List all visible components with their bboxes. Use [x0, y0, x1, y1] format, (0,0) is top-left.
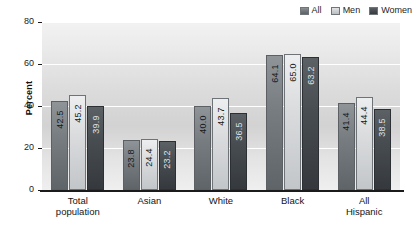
y-axis-tick-label: 20 — [0, 143, 34, 152]
x-axis-category-line: All — [328, 195, 400, 206]
bar-value-label: 45.2 — [73, 104, 82, 122]
bar-value-label: 40.0 — [198, 115, 207, 133]
x-axis-category-line: Asian — [114, 195, 186, 206]
bar: 44.4 — [356, 97, 373, 190]
bar-groups: 42.545.239.923.824.423.240.043.736.564.1… — [42, 22, 400, 190]
bar-value-label: 41.4 — [342, 112, 351, 130]
bar-value-label: 64.1 — [270, 65, 279, 83]
bar: 42.5 — [51, 101, 68, 190]
legend-label-men: Men — [343, 6, 361, 15]
bar: 45.2 — [69, 95, 86, 190]
bar-value-label: 63.2 — [306, 67, 315, 85]
y-axis-tick-label: 0 — [0, 185, 34, 194]
x-axis-category-line: Total — [42, 195, 114, 206]
x-axis-category-line: population — [42, 206, 114, 217]
bar-value-label: 24.4 — [145, 148, 154, 166]
bar-value-label: 36.5 — [234, 123, 243, 141]
bar: 43.7 — [212, 98, 229, 190]
bar-value-label: 44.4 — [360, 106, 369, 124]
bar-group: 23.824.423.2 — [114, 22, 186, 190]
x-axis-category-label: White — [185, 195, 257, 206]
bar-value-label: 23.2 — [163, 151, 172, 169]
x-axis-category-line: White — [185, 195, 257, 206]
y-axis-tick-label: 40 — [0, 101, 34, 110]
bar: 41.4 — [338, 103, 355, 190]
legend-swatch-all-icon — [300, 7, 309, 15]
bar-value-label: 38.5 — [378, 118, 387, 136]
legend-label-all: All — [312, 6, 322, 15]
x-axis-category-label: AllHispanic — [328, 195, 400, 217]
x-axis-category-label: Black — [257, 195, 329, 206]
x-axis-category-label: Asian — [114, 195, 186, 206]
x-axis-category-line: Black — [257, 195, 329, 206]
bar: 24.4 — [141, 139, 158, 190]
y-axis-title: Percent — [24, 70, 34, 126]
bar: 36.5 — [230, 113, 247, 190]
bar-value-label: 65.0 — [288, 63, 297, 81]
legend-item-all: All — [300, 6, 322, 15]
x-axis-category-line: Hispanic — [328, 206, 400, 217]
bar-value-label: 23.8 — [127, 149, 136, 167]
legend-swatch-women-icon — [369, 7, 378, 15]
bar: 65.0 — [284, 54, 301, 191]
bar-group: 41.444.438.5 — [328, 22, 400, 190]
x-axis-category-label: Totalpopulation — [42, 195, 114, 217]
legend-item-men: Men — [331, 6, 361, 15]
plot-area: 42.545.239.923.824.423.240.043.736.564.1… — [42, 22, 400, 190]
x-axis-line — [40, 190, 404, 192]
bar: 39.9 — [87, 106, 104, 190]
bar: 63.2 — [302, 57, 319, 190]
chart-legend: All Men Women — [300, 4, 412, 17]
bar-group: 64.165.063.2 — [257, 22, 329, 190]
x-axis-labels: TotalpopulationAsianWhiteBlackAllHispani… — [42, 195, 400, 235]
y-axis-tick-label: 60 — [0, 59, 34, 68]
bar: 38.5 — [374, 109, 391, 190]
bar-group: 42.545.239.9 — [42, 22, 114, 190]
legend-label-women: Women — [381, 6, 412, 15]
bar-value-label: 42.5 — [55, 110, 64, 128]
bar-value-label: 39.9 — [91, 116, 100, 134]
bar-chart: All Men Women Percent 020406080 42.545.2… — [0, 0, 418, 237]
y-axis-tick-label: 80 — [0, 17, 34, 26]
bar: 23.2 — [159, 141, 176, 190]
bar-value-label: 43.7 — [216, 108, 225, 126]
bar-group: 40.043.736.5 — [185, 22, 257, 190]
bar: 40.0 — [194, 106, 211, 190]
bar: 23.8 — [123, 140, 140, 190]
legend-swatch-men-icon — [331, 7, 340, 15]
bar: 64.1 — [266, 55, 283, 190]
legend-item-women: Women — [369, 6, 412, 15]
